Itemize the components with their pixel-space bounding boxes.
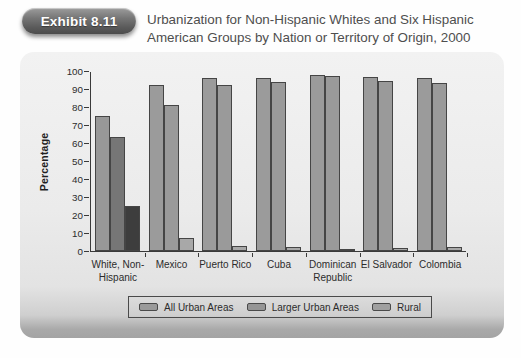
exhibit-badge: Exhibit 8.11 [22,8,136,34]
bar-larger-urban-areas [271,82,286,251]
bar-larger-urban-areas [164,105,179,251]
y-tick-mark [84,143,89,144]
exhibit-badge-label: Exhibit 8.11 [41,14,118,29]
x-category-label: Mexico [156,258,188,271]
x-category-label: El Salvador [361,258,412,271]
bar-larger-urban-areas [110,137,125,251]
legend-item-larger-urban-areas: Larger Urban Areas [247,302,359,313]
x-tick-mark [413,253,414,257]
legend-item-all-urban-areas: All Urban Areas [139,302,233,313]
y-tick-mark [84,197,89,198]
y-tick-mark [84,161,89,162]
x-category-label: Dominican Republic [309,258,356,284]
exhibit-title: Urbanization for Non-Hispanic Whites and… [147,11,515,47]
x-category-label: Colombia [419,258,461,271]
bar-group-el-salvador [359,72,413,251]
bar-group-mexico [145,72,199,251]
exhibit-figure: Exhibit 8.11 Urbanization for Non-Hispan… [0,0,521,358]
y-tick-mark [84,71,89,72]
bar-rural [232,246,247,251]
bar-groups [91,72,466,251]
y-tick-mark [84,179,89,180]
y-tick-label: 80 [47,102,83,113]
y-tick-mark [84,125,89,126]
bar-all-urban-areas [95,116,110,251]
legend-swatch [247,303,266,311]
bar-all-urban-areas [363,77,378,251]
chart-panel: Percentage 0102030405060708090100White, … [20,52,504,338]
bar-all-urban-areas [310,75,325,251]
bar-rural [125,206,140,251]
x-tick-mark [306,253,307,257]
bar-group-puerto-rico [198,72,252,251]
bar-group-colombia [412,72,466,251]
bar-rural [179,238,194,252]
y-tick-mark [84,89,89,90]
y-tick-label: 10 [47,228,83,239]
legend-item-rural: Rural [372,302,421,313]
legend-swatch [372,303,391,311]
y-tick-mark [84,215,89,216]
bar-group-dominican [305,72,359,251]
bar-all-urban-areas [202,78,217,251]
bar-all-urban-areas [149,85,164,252]
bar-rural [286,247,301,252]
x-category-label: Puerto Rico [199,258,251,271]
x-tick-mark [360,253,361,257]
x-tick-mark [198,253,199,257]
y-tick-mark [84,233,89,234]
exhibit-title-line2: American Groups by Nation or Territory o… [147,29,515,47]
bar-larger-urban-areas [325,76,340,252]
legend-item-label: Larger Urban Areas [272,302,359,313]
legend-swatch [139,303,158,311]
y-tick-label: 50 [47,156,83,167]
bar-larger-urban-areas [217,85,232,251]
y-tick-label: 100 [47,66,83,77]
y-tick-label: 40 [47,174,83,185]
y-tick-mark [84,107,89,108]
legend-item-label: All Urban Areas [164,302,233,313]
bar-group-cuba [252,72,306,251]
y-tick-label: 90 [47,84,83,95]
plot-area: 0102030405060708090100White, Non- Hispan… [90,72,466,252]
y-tick-mark [84,251,89,252]
bar-all-urban-areas [417,78,432,251]
x-category-label: White, Non- Hispanic [91,258,144,284]
bar-group-white-non [91,72,145,251]
x-tick-mark [467,253,468,257]
bar-all-urban-areas [256,78,271,251]
x-category-label: Cuba [267,258,291,271]
bar-rural [447,247,462,251]
exhibit-title-line1: Urbanization for Non-Hispanic Whites and… [147,11,515,29]
x-tick-mark [252,253,253,257]
y-tick-label: 70 [47,120,83,131]
legend-item-label: Rural [397,302,421,313]
bar-rural [393,248,408,251]
bar-rural [340,249,355,251]
y-tick-label: 0 [47,246,83,257]
bar-larger-urban-areas [378,81,393,251]
y-tick-label: 20 [47,210,83,221]
legend-box: All Urban AreasLarger Urban AreasRural [128,296,432,318]
bar-larger-urban-areas [432,83,447,251]
y-tick-label: 60 [47,138,83,149]
y-tick-label: 30 [47,192,83,203]
x-tick-mark [145,253,146,257]
